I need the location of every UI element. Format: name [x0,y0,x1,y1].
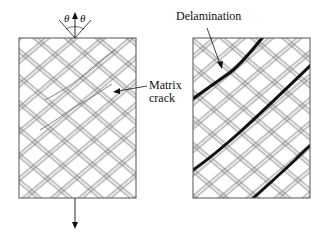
left-laminate-panel [19,38,136,198]
matrix-crack-label-line2: crack [149,92,182,105]
delamination-label: Delamination [176,10,241,23]
laminate-damage-diagram [0,0,326,235]
theta-label-right: θ [80,12,85,24]
right-laminate-panel [190,36,312,201]
matrix-crack-label: Matrix crack [149,79,182,105]
load-arrow-down [72,198,78,229]
theta-label-left: θ [64,12,69,24]
